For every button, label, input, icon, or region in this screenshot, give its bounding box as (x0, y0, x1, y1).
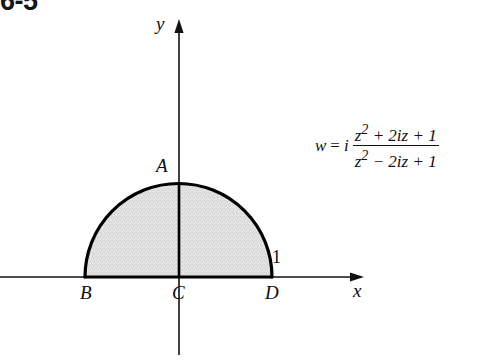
x-axis-label: x (353, 281, 361, 300)
formula-imaginary-unit: i (344, 137, 349, 154)
point-label-D: D (265, 283, 279, 302)
y-axis-arrowhead (174, 19, 183, 33)
point-label-B: B (80, 283, 92, 302)
y-axis-label: y (156, 14, 164, 33)
denominator-rest: − 2iz + 1 (368, 152, 436, 171)
x-axis-tick-label-one: 1 (272, 248, 281, 266)
point-label-C: C (172, 283, 185, 302)
point-label-A: A (156, 156, 168, 175)
numerator-rest: + 2iz + 1 (368, 126, 436, 145)
figure-drawing (0, 0, 479, 361)
formula-equals: = (330, 137, 340, 154)
formula-lhs: w (315, 137, 326, 154)
figure-canvas: 6-5 A B C D (0, 0, 479, 361)
mapping-formula: w = i z2 + 2iz + 1 z2 − 2iz + 1 (315, 122, 439, 170)
formula-fraction: z2 + 2iz + 1 z2 − 2iz + 1 (353, 122, 439, 170)
formula-denominator: z2 − 2iz + 1 (353, 146, 439, 170)
formula-numerator: z2 + 2iz + 1 (353, 122, 439, 145)
